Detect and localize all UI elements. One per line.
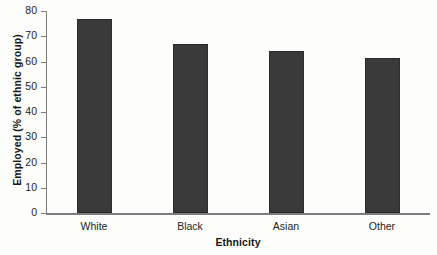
y-axis-tick-label: 80 [25, 4, 37, 16]
y-axis-tick-mark [41, 213, 46, 214]
y-axis-tick-mark [41, 163, 46, 164]
y-axis-tick-label: 40 [25, 105, 37, 117]
bar [173, 44, 208, 213]
x-axis-tick-label: White [55, 220, 134, 232]
y-axis-line [46, 11, 47, 214]
y-axis-tick-label: 20 [25, 156, 37, 168]
x-axis-tick-label: Asian [247, 220, 326, 232]
x-axis-tick-label: Other [343, 220, 422, 232]
bar-group: Black [173, 11, 208, 213]
x-axis-line [46, 213, 430, 215]
y-axis-tick-mark [41, 137, 46, 138]
y-axis-tick-mark [41, 36, 46, 37]
bar-group: Asian [269, 11, 304, 213]
y-axis-tick-mark [41, 112, 46, 113]
y-axis-tick-mark [41, 11, 46, 12]
y-axis-tick-label: 60 [25, 55, 37, 67]
x-axis-tick-label: Black [151, 220, 230, 232]
bar [77, 19, 112, 213]
y-axis-tick-label: 70 [25, 29, 37, 41]
bar [365, 58, 400, 213]
y-axis-tick-mark [41, 188, 46, 189]
y-axis-tick-mark [41, 62, 46, 63]
y-axis-tick-mark [41, 87, 46, 88]
bar [269, 51, 304, 213]
y-axis-tick-label: 0 [31, 206, 37, 218]
bar-group: Other [365, 11, 400, 213]
y-axis-tick-label: 30 [25, 130, 37, 142]
y-axis-tick-label: 50 [25, 80, 37, 92]
x-axis-title: Ethnicity [46, 236, 430, 248]
bar-group: White [77, 11, 112, 213]
y-axis-tick-label: 10 [25, 181, 37, 193]
bar-chart: Employed (% of ethnic group) 01020304050… [0, 0, 437, 255]
y-axis-title: Employed (% of ethnic group) [11, 5, 23, 215]
plot-area: 01020304050607080 WhiteBlackAsianOther [46, 11, 430, 213]
